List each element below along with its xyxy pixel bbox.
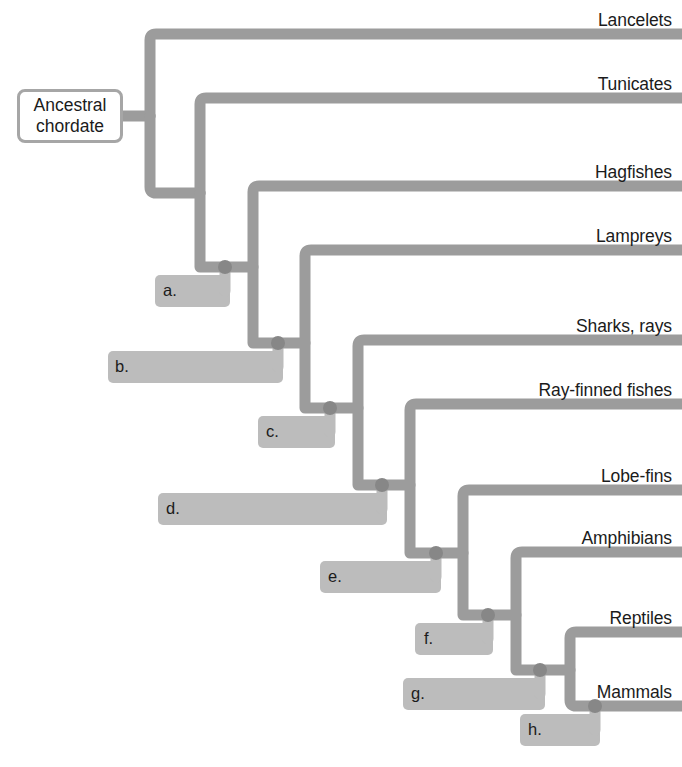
- branch-node-d-trunk: [330, 408, 382, 485]
- ancestral-chordate-box: Ancestral chordate: [17, 89, 123, 143]
- node-label-e: e.: [328, 568, 342, 585]
- node-dot-a: [218, 260, 232, 274]
- node-dot-f: [481, 608, 495, 622]
- node-label-b: b.: [115, 358, 129, 375]
- node-dot-e: [429, 546, 443, 560]
- branch-node-g-trunk: [488, 615, 540, 670]
- node-dot-g: [533, 663, 547, 677]
- node-label-h: h.: [528, 721, 542, 738]
- tip-label-ray-finned-fishes: Ray-finned fishes: [538, 382, 672, 400]
- node-dot-b: [271, 336, 285, 350]
- branch-node-b-trunk: [225, 267, 278, 343]
- ancestral-chordate-label: Ancestral chordate: [34, 95, 107, 138]
- tip-label-mammals: Mammals: [597, 684, 672, 702]
- tip-label-lancelets: Lancelets: [598, 12, 672, 30]
- tip-label-amphibians: Amphibians: [582, 530, 672, 548]
- node-bar-b: [108, 351, 283, 383]
- node-label-a: a.: [163, 282, 177, 299]
- node-label-c: c.: [266, 423, 279, 440]
- branch-to-node-a: [200, 193, 225, 267]
- branch-reptiles: [570, 632, 682, 670]
- branch-node-a-trunk: [150, 116, 200, 193]
- node-dot-c: [323, 401, 337, 415]
- branch-node-c-trunk: [278, 343, 330, 408]
- node-dot-d: [375, 478, 389, 492]
- tip-label-sharks-rays: Sharks, rays: [576, 318, 672, 336]
- tip-label-hagfishes: Hagfishes: [595, 164, 672, 182]
- phylogenetic-tree-figure: Ancestral chordate Lancelets Tunicates H…: [0, 0, 682, 767]
- node-label-f: f.: [424, 630, 433, 647]
- node-label-g: g.: [411, 685, 425, 702]
- branch-amphibians: [516, 552, 682, 615]
- branch-node-f-trunk: [436, 553, 488, 615]
- node-bar-d: [158, 493, 387, 525]
- branch-node-e-trunk: [382, 485, 436, 553]
- tip-label-lampreys: Lampreys: [596, 228, 672, 246]
- tip-label-reptiles: Reptiles: [610, 610, 672, 628]
- node-label-d: d.: [166, 500, 180, 517]
- tip-label-tunicates: Tunicates: [598, 76, 672, 94]
- tip-label-lobe-fins: Lobe-fins: [601, 468, 672, 486]
